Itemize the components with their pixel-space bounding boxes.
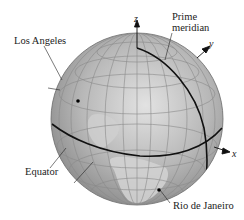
prime-meridian-label-line1: Prime: [172, 11, 197, 22]
z-axis-label: z: [134, 13, 138, 24]
x-axis-label: x: [232, 148, 236, 159]
y-axis-label: y: [209, 38, 213, 49]
prime-meridian-label-line2: meridian: [172, 22, 209, 33]
equator-label: Equator: [25, 166, 58, 177]
los-angeles-label: Los Angeles: [14, 35, 66, 46]
globe-figure: [0, 0, 244, 220]
los-angeles-leader: [44, 46, 62, 80]
rio-de-janeiro-label: Rio de Janeiro: [173, 200, 234, 211]
los-angeles-dot: [76, 99, 80, 103]
rio-dot: [157, 188, 161, 192]
